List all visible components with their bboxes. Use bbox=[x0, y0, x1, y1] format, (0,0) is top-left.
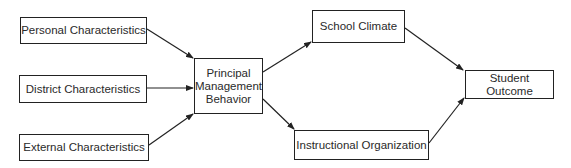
edge-personal-to-principal bbox=[147, 29, 193, 58]
node-student-outcome: Student Outcome bbox=[465, 70, 554, 99]
node-label: School Climate bbox=[320, 20, 397, 33]
node-personal-characteristics: Personal Characteristics bbox=[20, 17, 147, 44]
node-instructional-organization: Instructional Organization bbox=[294, 130, 429, 160]
node-label: External Characteristics bbox=[23, 141, 144, 154]
node-label-line-3: Behavior bbox=[206, 93, 251, 106]
node-school-climate: School Climate bbox=[312, 10, 405, 43]
node-label-line-1: Principal bbox=[206, 67, 250, 80]
node-label-line-2: Management bbox=[195, 80, 262, 93]
edge-principal-to-climate bbox=[263, 42, 311, 72]
edge-instruction-to-outcome bbox=[429, 98, 464, 143]
node-label: Instructional Organization bbox=[296, 139, 426, 152]
edge-principal-to-instruction bbox=[263, 99, 294, 129]
node-label: Personal Characteristics bbox=[21, 24, 146, 37]
node-district-characteristics: District Characteristics bbox=[19, 75, 147, 103]
node-external-characteristics: External Characteristics bbox=[19, 134, 149, 161]
edge-climate-to-outcome bbox=[405, 28, 463, 70]
node-label: Student Outcome bbox=[466, 72, 553, 98]
edge-external-to-principal bbox=[149, 114, 193, 145]
node-principal-management-behavior: Principal Management Behavior bbox=[194, 58, 263, 114]
node-label: District Characteristics bbox=[26, 83, 140, 96]
